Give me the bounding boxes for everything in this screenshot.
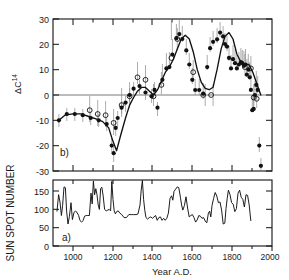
dual-panel-chart: 30 20 10 0 -10 -20 -30 [0, 0, 289, 280]
panel-b-label: b) [60, 147, 69, 158]
panel-b-ylabel-base: ΔC [13, 81, 23, 94]
svg-text:ΔC14: ΔC14 [11, 74, 23, 94]
panel-b-ytick-label-0: -30 [36, 167, 49, 177]
panel-b-ylabel-exponent: 14 [11, 74, 18, 82]
panel-a-xtick-label-3: 1600 [183, 252, 202, 262]
figure-container: 30 20 10 0 -10 -20 -30 [0, 0, 289, 280]
panel-a-ytick-label-2: 100 [34, 205, 49, 215]
panel-a-xtick-label-5: 2000 [261, 252, 280, 262]
panel-b-ytick-label-5: 20 [39, 40, 49, 50]
panel-a-ylabel: SUN SPOT NUMBER [5, 164, 16, 261]
panel-b-ytick-label-2: -10 [36, 116, 49, 126]
panel-b-ytick-label-3: 0 [44, 91, 49, 101]
panel-b-ylabel: ΔC14 [11, 74, 23, 94]
panel-a-xtick-label-2: 1400 [143, 252, 162, 262]
panel-a-ytick-label-1: 50 [39, 223, 49, 233]
panel-a-x-ticks [73, 246, 272, 251]
panel-a-label: a) [62, 232, 71, 243]
panel-a-xtick-label-1: 1200 [104, 252, 123, 262]
panel-b-ytick-label-6: 30 [39, 15, 49, 25]
panel-a-xtick-label-0: 1000 [64, 252, 83, 262]
panel-a-frame [53, 180, 272, 246]
panel-b-ytick-label-4: 10 [39, 65, 49, 75]
panel-a-ytick-label-0: 0 [44, 242, 49, 252]
panel-a-xtick-label-4: 1800 [223, 252, 242, 262]
panel-a-sunspot: 150 100 50 0 1000 1200 1400 [5, 164, 280, 277]
panel-b-delta-c14: 30 20 10 0 -10 -20 -30 [11, 15, 272, 177]
panel-b-ytick-label-1: -20 [36, 141, 49, 151]
panel-a-ylabel-text: SUN SPOT NUMBER [5, 164, 16, 261]
x-axis-label: Year A.D. [152, 266, 192, 277]
panel-a-ytick-label-3: 150 [34, 187, 49, 197]
